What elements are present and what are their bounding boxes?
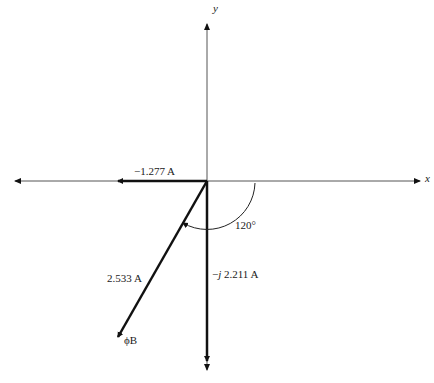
real-component-label: −1.277 A	[134, 165, 175, 177]
phasor-diagram	[0, 0, 434, 383]
x-axis-label: x	[425, 172, 430, 184]
imag-component-label: −j 2.211 A	[212, 268, 258, 280]
phasor-b	[118, 181, 207, 337]
y-axis-label: y	[213, 2, 218, 14]
angle-label: 120°	[235, 219, 256, 231]
phase-b-tip-label: ϕB	[124, 334, 137, 346]
phase-b-magnitude-label: 2.533 A	[107, 272, 142, 284]
